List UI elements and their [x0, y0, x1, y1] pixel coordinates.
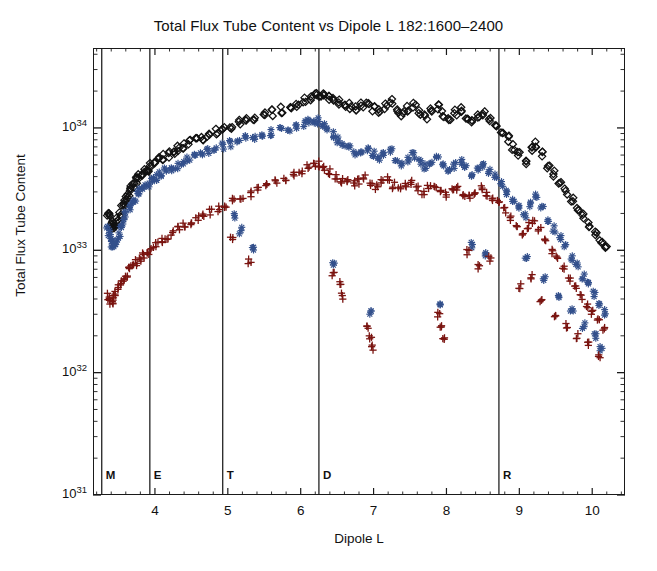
series-red-plus: [104, 158, 608, 362]
x-tick-label-4: 4: [140, 503, 170, 518]
x-tick-label-9: 9: [504, 503, 534, 518]
region-label-D: D: [323, 469, 331, 481]
region-label-R: R: [503, 469, 511, 481]
x-tick-label-8: 8: [431, 503, 461, 518]
axis-ticks: [93, 48, 625, 495]
region-label-T: T: [227, 469, 234, 481]
region-marker-lines: [102, 48, 499, 495]
region-label-M: M: [106, 469, 116, 481]
x-tick-label-10: 10: [577, 503, 607, 518]
chart-figure: Total Flux Tube Content vs Dipole L 182:…: [0, 0, 657, 571]
x-tick-label-5: 5: [213, 503, 243, 518]
y-tick-label-1e31: 1031: [41, 486, 87, 501]
y-tick-label-1e34: 1034: [41, 119, 87, 134]
y-tick-label-1e32: 1032: [41, 364, 87, 379]
region-label-E: E: [154, 469, 162, 481]
y-tick-label-1e33: 1033: [41, 241, 87, 256]
x-tick-label-6: 6: [286, 503, 316, 518]
chart-svg: [0, 0, 657, 571]
x-tick-label-7: 7: [359, 503, 389, 518]
